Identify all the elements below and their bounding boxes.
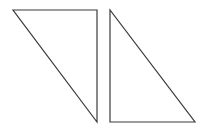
- left-triangle: [13, 10, 97, 122]
- diagram-canvas: [0, 0, 209, 132]
- right-triangle: [110, 10, 195, 122]
